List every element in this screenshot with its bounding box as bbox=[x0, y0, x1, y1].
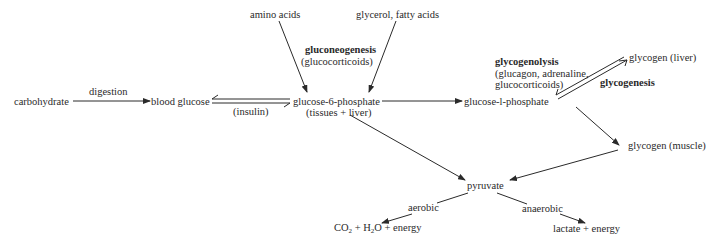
label-glycogenolysis-hormones-2: glucocorticoids) bbox=[495, 79, 563, 91]
label-glycogenesis: glycogenesis bbox=[600, 77, 655, 89]
label-glucocorticoids: (glucocorticoids) bbox=[301, 56, 373, 68]
node-glycerol-fatty-acids: glycerol, fatty acids bbox=[356, 9, 439, 21]
label-gluconeogenesis: gluconeogenesis bbox=[305, 44, 376, 56]
node-glycogen-muscle: glycogen (muscle) bbox=[628, 140, 706, 152]
arrow-pyruvate-anaerobic-b bbox=[560, 214, 585, 223]
label-glycogenolysis: glycogenolysis bbox=[495, 56, 559, 68]
node-g6p-location: (tissues + liver) bbox=[306, 107, 371, 119]
plus-h-text: + H bbox=[352, 222, 371, 233]
arrow-glycerol bbox=[369, 21, 396, 92]
arrow-g6p-to-pyruvate bbox=[350, 115, 465, 180]
label-digestion: digestion bbox=[89, 86, 128, 98]
arrows-layer bbox=[0, 0, 714, 248]
metabolism-diagram: carbohydrate blood glucose amino acids g… bbox=[0, 0, 714, 248]
node-pyruvate: pyruvate bbox=[467, 180, 504, 192]
node-glucose-1-phosphate: glucose-l-phosphate bbox=[464, 96, 549, 108]
label-aerobic: aerobic bbox=[408, 202, 439, 214]
node-aerobic-products: CO2 + H2O + energy bbox=[334, 222, 422, 234]
label-insulin: (insulin) bbox=[233, 106, 269, 118]
label-anaerobic: anaerobic bbox=[522, 203, 563, 215]
arrow-muscle-to-pyruvate bbox=[510, 150, 618, 180]
arrow-pyruvate-aerobic-a bbox=[437, 193, 468, 203]
arrow-g1p-to-muscle bbox=[576, 107, 619, 145]
node-glycogen-liver: glycogen (liver) bbox=[629, 52, 696, 64]
node-blood-glucose: blood glucose bbox=[151, 96, 210, 108]
co-text: CO bbox=[334, 222, 349, 233]
node-amino-acids: amino acids bbox=[250, 9, 300, 21]
node-carbohydrate: carbohydrate bbox=[14, 96, 69, 108]
node-anaerobic-products: lactate + energy bbox=[553, 223, 620, 235]
o-energy-text: O + energy bbox=[374, 222, 421, 233]
